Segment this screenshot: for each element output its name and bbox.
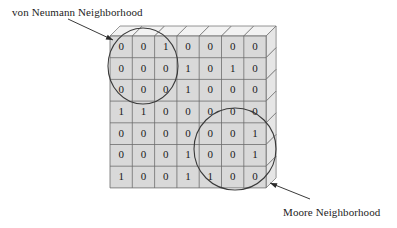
- grid-cell-value: 1: [230, 62, 236, 74]
- grid-cell-value: 0: [230, 40, 236, 52]
- grid-cell-value: 1: [185, 83, 191, 95]
- grid-cell-value: 1: [185, 170, 191, 182]
- grid-cell-value: 0: [118, 62, 124, 74]
- grid-cell-value: 0: [141, 148, 147, 160]
- grid-cell-value: 0: [163, 127, 169, 139]
- grid-cell-value: 0: [185, 40, 191, 52]
- grid-cell-value: 1: [252, 148, 258, 160]
- grid-cell-value: 1: [185, 62, 191, 74]
- grid-cell-value: 1: [163, 40, 169, 52]
- grid-cell-value: 0: [230, 127, 236, 139]
- grid-cell-value: 0: [185, 127, 191, 139]
- von-neumann-arrow-line: [68, 19, 113, 40]
- grid-cell-value: 0: [252, 170, 258, 182]
- grid-cell-value: 0: [163, 62, 169, 74]
- grid-cell-value: 0: [252, 40, 258, 52]
- grid-cell-value: 0: [118, 40, 124, 52]
- grid-cell-value: 0: [208, 83, 214, 95]
- grid-cell-value: 0: [141, 62, 147, 74]
- grid-cell-value: 0: [208, 62, 214, 74]
- grid-cell-value: 0: [163, 105, 169, 117]
- grid-cell-value: 1: [118, 170, 124, 182]
- grid-cell-value: 0: [252, 62, 258, 74]
- cellular-automaton-diagram: 0010000000101000010001100000000000100010…: [0, 0, 397, 228]
- grid-cell-value: 0: [141, 40, 147, 52]
- grid-cell-value: 0: [141, 170, 147, 182]
- moore-arrow-head: [270, 183, 277, 188]
- grid-cell-value: 0: [230, 105, 236, 117]
- grid-cell-value: 0: [208, 127, 214, 139]
- moore-neighborhood-label: Moore Neighborhood: [283, 206, 380, 218]
- von-neumann-neighborhood-label: von Neumann Neighborhood: [12, 6, 143, 18]
- grid-cell-value: 0: [141, 83, 147, 95]
- grid-cell-value: 0: [230, 148, 236, 160]
- grid-cell-value: 1: [118, 105, 124, 117]
- grid-cell-value: 0: [230, 83, 236, 95]
- grid-cell-value: 1: [141, 105, 147, 117]
- figure-canvas: 0010000000101000010001100000000000100010…: [0, 0, 397, 228]
- grid-cell-value: 0: [163, 170, 169, 182]
- grid-cell-value: 1: [185, 148, 191, 160]
- grid-cell-value: 0: [252, 83, 258, 95]
- grid-cell-value: 0: [185, 105, 191, 117]
- grid-cell-value: 0: [141, 127, 147, 139]
- grid-cell-value: 0: [208, 148, 214, 160]
- grid-cell-value: 0: [163, 83, 169, 95]
- grid-cell-value: 0: [163, 148, 169, 160]
- grid-cell-value: 0: [118, 148, 124, 160]
- grid-cell-value: 0: [208, 40, 214, 52]
- grid-cell-value: 0: [118, 127, 124, 139]
- grid-cell-value: 1: [252, 127, 258, 139]
- grid-cell-value: 0: [230, 170, 236, 182]
